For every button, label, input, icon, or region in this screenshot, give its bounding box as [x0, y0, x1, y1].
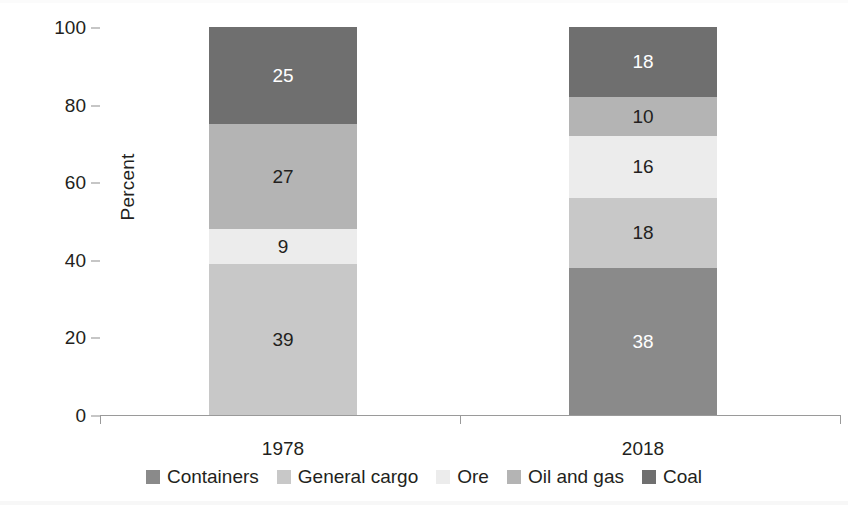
- legend-swatch-icon: [436, 470, 450, 484]
- bar-segment-value-label: 39: [272, 330, 293, 349]
- legend-item-label: Coal: [663, 466, 702, 488]
- y-tick-label-40: 40: [65, 250, 86, 272]
- plot-area: Percent 020406080100 3992725197838181610…: [100, 28, 840, 416]
- legend-item-label: Ore: [457, 466, 489, 488]
- page-edge-top: [0, 0, 848, 3]
- y-tick-mark-80: [91, 105, 100, 106]
- y-tick-label-100: 100: [54, 17, 86, 39]
- y-tick-label-60: 60: [65, 172, 86, 194]
- bar-segment-value-label: 18: [632, 52, 653, 71]
- bar-segment-value-label: 10: [632, 107, 653, 126]
- bar-segment-value-label: 27: [272, 167, 293, 186]
- chart-legend: ContainersGeneral cargoOreOil and gasCoa…: [0, 466, 848, 488]
- legend-swatch-icon: [507, 470, 521, 484]
- y-tick-mark-0: [91, 416, 100, 417]
- x-tick-label-1978: 1978: [262, 438, 304, 460]
- bar-segment-value-label: 9: [278, 237, 289, 256]
- page-edge-bottom: [0, 501, 848, 505]
- bar-segment-value-label: 25: [272, 66, 293, 85]
- bar-segment-1978-oil-and-gas[interactable]: 27: [209, 124, 357, 229]
- legend-item-general-cargo[interactable]: General cargo: [277, 466, 418, 488]
- bar-segment-2018-containers[interactable]: 38: [569, 268, 717, 415]
- legend-swatch-icon: [642, 470, 656, 484]
- x-axis-line: [100, 415, 840, 416]
- bar-1978[interactable]: 3992725: [209, 27, 357, 415]
- x-tick-label-2018: 2018: [622, 438, 664, 460]
- bar-segment-value-label: 18: [632, 223, 653, 242]
- bar-segment-2018-coal[interactable]: 18: [569, 27, 717, 97]
- bar-segment-1978-general-cargo[interactable]: 39: [209, 264, 357, 415]
- stacked-bar-chart: Percent 020406080100 3992725197838181610…: [0, 0, 848, 505]
- y-tick-label-0: 0: [75, 405, 86, 427]
- legend-item-containers[interactable]: Containers: [146, 466, 259, 488]
- bar-segment-value-label: 38: [632, 332, 653, 351]
- y-tick-mark-40: [91, 260, 100, 261]
- x-axis-tick-2: [840, 415, 841, 424]
- legend-item-label: Containers: [167, 466, 259, 488]
- bar-segment-1978-ore[interactable]: 9: [209, 229, 357, 264]
- y-tick-mark-60: [91, 183, 100, 184]
- y-tick-mark-20: [91, 338, 100, 339]
- bar-2018[interactable]: 3818161018: [569, 27, 717, 415]
- y-tick-label-80: 80: [65, 95, 86, 117]
- bar-segment-1978-coal[interactable]: 25: [209, 27, 357, 124]
- legend-swatch-icon: [146, 470, 160, 484]
- y-axis-ticks: 020406080100: [30, 28, 100, 416]
- legend-item-label: General cargo: [298, 466, 418, 488]
- y-axis-title: Percent: [117, 97, 139, 277]
- x-axis-tick-0: [100, 415, 101, 424]
- bar-segment-2018-oil-and-gas[interactable]: 10: [569, 97, 717, 136]
- x-axis-tick-1: [460, 415, 461, 424]
- bar-segment-2018-ore[interactable]: 16: [569, 136, 717, 198]
- bar-segment-value-label: 16: [632, 157, 653, 176]
- legend-item-label: Oil and gas: [528, 466, 624, 488]
- y-tick-mark-100: [91, 28, 100, 29]
- legend-swatch-icon: [277, 470, 291, 484]
- bar-segment-2018-general-cargo[interactable]: 18: [569, 198, 717, 268]
- legend-item-coal[interactable]: Coal: [642, 466, 702, 488]
- y-tick-label-20: 20: [65, 327, 86, 349]
- legend-item-oil-and-gas[interactable]: Oil and gas: [507, 466, 624, 488]
- legend-item-ore[interactable]: Ore: [436, 466, 489, 488]
